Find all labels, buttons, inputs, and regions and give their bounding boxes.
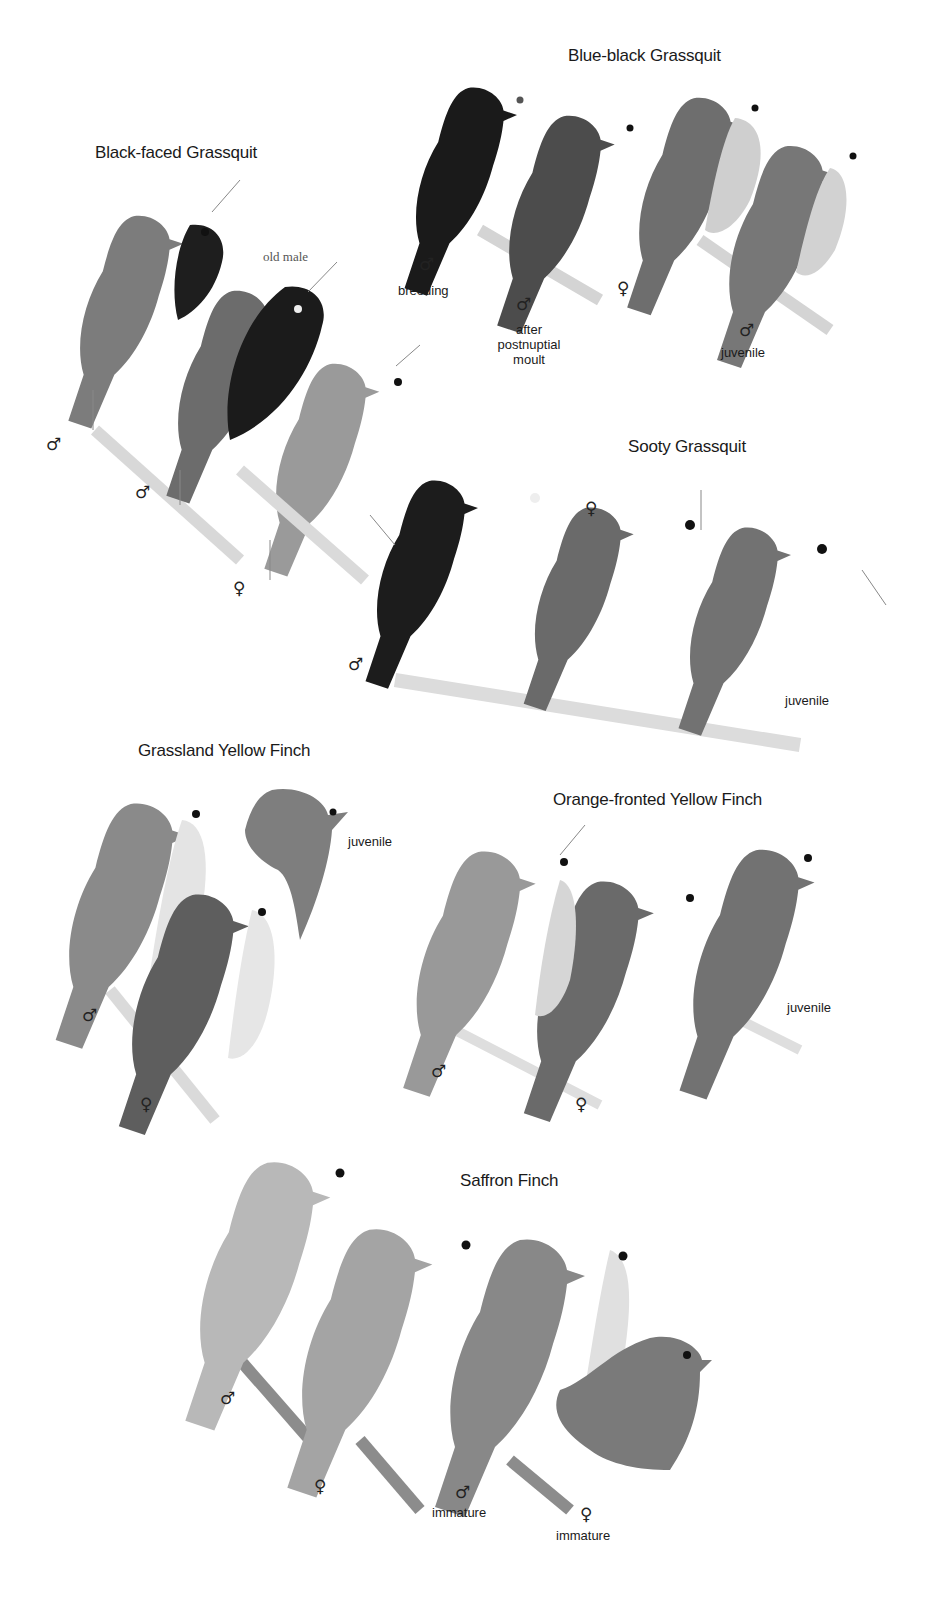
figure-label-breeding: breeding (398, 283, 449, 298)
species-title-sooty-grassquit: Sooty Grassquit (628, 437, 746, 457)
male-symbol-icon: ♂ (419, 256, 434, 273)
species-title-black-faced-grassquit: Black-faced Grassquit (95, 143, 257, 163)
figure-label-immature-female: immature (556, 1528, 610, 1543)
orange-fronted-yellow-finch-figures (403, 825, 814, 1122)
female-symbol-icon: ♀ (575, 1096, 587, 1113)
blue-black-grassquit-figures (405, 88, 857, 368)
saffron-finch-figures (185, 1162, 712, 1517)
male-symbol-icon: ♂ (455, 1484, 470, 1501)
bird-illustrations (0, 0, 934, 1621)
figure-label-juvenile: juvenile (721, 345, 765, 360)
male-symbol-icon: ♂ (220, 1390, 235, 1407)
female-symbol-icon: ♀ (585, 500, 597, 517)
female-symbol-icon: ♀ (233, 580, 245, 597)
species-title-blue-black-grassquit: Blue-black Grassquit (568, 46, 721, 66)
female-symbol-icon: ♀ (617, 280, 629, 297)
figure-label-juvenile: juvenile (787, 1000, 831, 1015)
species-title-saffron-finch: Saffron Finch (460, 1171, 558, 1191)
black-faced-grassquit-figures (68, 180, 420, 580)
figure-label-old-male: old male (263, 249, 308, 264)
figure-label-after-postnuptial-moult: after postnuptial moult (489, 322, 569, 367)
male-symbol-icon: ♂ (82, 1007, 97, 1024)
male-symbol-icon: ♂ (135, 484, 150, 501)
male-symbol-icon: ♂ (516, 296, 531, 313)
female-symbol-icon: ♀ (314, 1478, 326, 1495)
male-symbol-icon: ♂ (348, 656, 363, 673)
species-title-orange-fronted-yellow-finch: Orange-fronted Yellow Finch (553, 790, 762, 810)
illustration-plate: Blue-black Grassquit Black-faced Grassqu… (0, 0, 934, 1621)
male-symbol-icon: ♂ (739, 322, 754, 339)
grassland-yellow-finch-figures (56, 789, 348, 1135)
figure-label-immature-male: immature (432, 1505, 486, 1520)
figure-label-juvenile: juvenile (348, 834, 392, 849)
male-symbol-icon: ♂ (46, 436, 61, 453)
figure-label-juvenile: juvenile (785, 693, 829, 708)
female-symbol-icon: ♀ (140, 1096, 152, 1113)
male-symbol-icon: ♂ (431, 1063, 446, 1080)
female-symbol-icon: ♀ (580, 1506, 592, 1523)
species-title-grassland-yellow-finch: Grassland Yellow Finch (138, 741, 310, 761)
